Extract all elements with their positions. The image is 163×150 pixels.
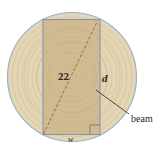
beam-label: beam — [131, 113, 153, 124]
beam-diagram: 22 d w beam — [0, 0, 163, 150]
diagonal-label: 22 — [58, 70, 70, 82]
width-label: w — [68, 135, 74, 144]
depth-label: d — [102, 72, 108, 84]
